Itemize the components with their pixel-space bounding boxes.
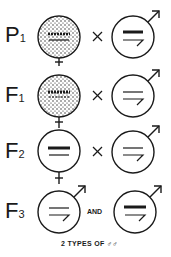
genetic-cross-diagram xyxy=(0,0,171,257)
generation-letter: F xyxy=(5,138,17,163)
f2-cross-icon xyxy=(93,147,102,156)
f1-male-symbol xyxy=(112,70,159,117)
p1-female-symbol xyxy=(38,16,80,66)
generation-label-f2: F2 xyxy=(5,138,24,164)
generation-letter: F xyxy=(5,198,17,223)
generation-label-f3: F3 xyxy=(5,198,24,224)
p1-cross-icon xyxy=(93,32,102,41)
f2-male-symbol xyxy=(112,126,159,173)
generation-letter: F xyxy=(5,82,17,107)
f1-female-symbol xyxy=(38,75,80,128)
generation-subscript: 1 xyxy=(20,32,25,44)
p1-male-symbol xyxy=(112,11,159,58)
caption: 2 TYPES OF ♂♂ xyxy=(61,240,118,247)
generation-subscript: 1 xyxy=(18,92,23,104)
f3-male-symbol-a xyxy=(38,186,85,233)
f1-cross-icon xyxy=(93,91,102,100)
generation-subscript: 2 xyxy=(18,148,23,160)
generation-letter: P xyxy=(5,22,19,47)
f2-female-symbol xyxy=(38,130,80,184)
generation-label-f1: F1 xyxy=(5,82,24,108)
generation-subscript: 3 xyxy=(18,208,23,220)
generation-label-p1: P1 xyxy=(5,22,25,48)
f3-male-symbol-b xyxy=(114,186,161,233)
and-label: AND xyxy=(87,208,102,215)
